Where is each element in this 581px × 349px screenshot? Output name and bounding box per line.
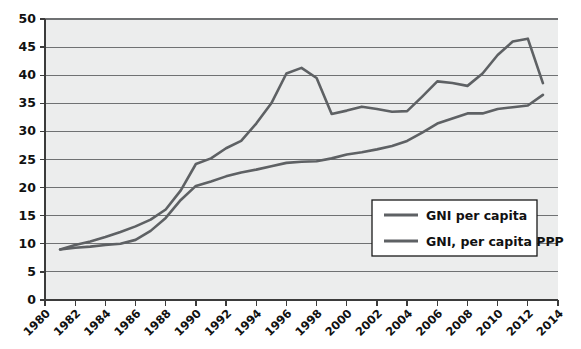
y-tick-label-15: 15: [19, 208, 36, 223]
x-tick-label-2004: 2004: [383, 306, 416, 339]
legend-label-gni-per-capita-ppp: GNI, per capita PPP: [426, 234, 564, 249]
y-tick-label-20: 20: [19, 180, 37, 195]
y-tick-label-40: 40: [19, 67, 37, 82]
chart-container: 05101520253035404550 1980198219841986198…: [0, 0, 581, 349]
y-tick-label-10: 10: [19, 236, 37, 251]
x-tick-label-2002: 2002: [353, 306, 386, 339]
y-tick-label-50: 50: [19, 11, 37, 26]
chart-legend: GNI per capita GNI, per capita PPP: [372, 200, 564, 256]
y-tick-label-0: 0: [27, 292, 36, 307]
x-tick-label-2012: 2012: [503, 306, 536, 339]
x-tick-label-2010: 2010: [473, 306, 506, 339]
x-tick-label-1980: 1980: [21, 306, 54, 339]
x-tick-label-1984: 1984: [81, 306, 114, 339]
y-tick-label-25: 25: [19, 152, 36, 167]
x-tick-label-2014: 2014: [534, 306, 567, 339]
y-tick-label-35: 35: [19, 95, 36, 110]
x-tick-label-2000: 2000: [322, 306, 355, 339]
x-axis-tick-labels: 1980198219841986198819901992199419961998…: [21, 306, 567, 339]
x-tick-label-1988: 1988: [141, 306, 174, 339]
x-axis-tickmarks: [45, 300, 558, 306]
x-tick-label-2008: 2008: [443, 306, 476, 339]
legend-label-gni-per-capita: GNI per capita: [426, 208, 527, 223]
y-tick-label-5: 5: [27, 264, 36, 279]
x-tick-label-1998: 1998: [292, 306, 325, 339]
x-tick-label-1982: 1982: [51, 306, 84, 339]
x-tick-label-1992: 1992: [202, 306, 235, 339]
y-tick-label-45: 45: [19, 39, 36, 54]
line-chart: 05101520253035404550 1980198219841986198…: [0, 0, 581, 349]
y-axis-tickmarks: [40, 19, 45, 300]
x-tick-label-1996: 1996: [262, 306, 295, 339]
y-axis-tick-labels: 05101520253035404550: [19, 11, 37, 307]
x-tick-label-1990: 1990: [171, 306, 204, 339]
x-tick-label-2006: 2006: [413, 306, 446, 339]
x-tick-label-1986: 1986: [111, 306, 144, 339]
x-tick-label-1994: 1994: [232, 306, 265, 339]
y-tick-label-30: 30: [19, 123, 37, 138]
